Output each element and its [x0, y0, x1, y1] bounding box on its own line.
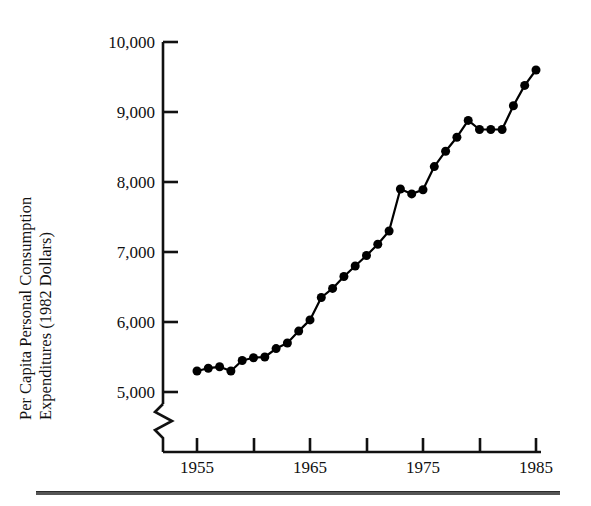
- data-point: [520, 81, 529, 90]
- data-point: [373, 240, 382, 249]
- data-point: [215, 362, 224, 371]
- data-point: [441, 147, 450, 156]
- data-point: [351, 262, 360, 271]
- y-axis-break-zigzag: [155, 404, 172, 452]
- data-point: [464, 116, 473, 125]
- data-point: [260, 353, 269, 362]
- data-point: [419, 185, 428, 194]
- data-point: [509, 101, 518, 110]
- data-point: [317, 293, 326, 302]
- axis-lines: [155, 42, 541, 452]
- data-point: [362, 251, 371, 260]
- data-point: [385, 227, 394, 236]
- data-point: [396, 185, 405, 194]
- data-point: [294, 327, 303, 336]
- data-series: [193, 66, 541, 376]
- data-point: [498, 125, 507, 134]
- data-point: [430, 162, 439, 171]
- y-tick-label-8000: 8,000: [117, 173, 155, 193]
- data-point: [226, 367, 235, 376]
- data-point: [475, 125, 484, 134]
- footer-rule: [36, 491, 560, 495]
- y-tick-label-9000: 9,000: [117, 103, 155, 123]
- data-point: [452, 133, 461, 142]
- data-point: [339, 272, 348, 281]
- y-tick-label-5000: 5,000: [117, 383, 155, 403]
- data-point: [306, 315, 315, 324]
- y-tick-label-6000: 6,000: [117, 313, 155, 333]
- data-point: [486, 125, 495, 134]
- data-point: [407, 189, 416, 198]
- x-tick-label-1975: 1975: [393, 458, 453, 478]
- series-markers: [193, 66, 541, 376]
- y-tick-label-10000: 10,000: [108, 33, 155, 53]
- data-point: [283, 339, 292, 348]
- x-tick-label-1985: 1985: [506, 458, 566, 478]
- chart-figure: Per Capita Personal Consumption Expendit…: [0, 0, 591, 506]
- x-tick-label-1955: 1955: [167, 458, 227, 478]
- data-point: [249, 353, 258, 362]
- plot-area: [0, 0, 591, 506]
- data-point: [272, 344, 281, 353]
- data-point: [328, 284, 337, 293]
- data-point: [238, 356, 247, 365]
- y-tick-label-7000: 7,000: [117, 243, 155, 263]
- data-point: [204, 364, 213, 373]
- x-tick-label-1965: 1965: [280, 458, 340, 478]
- series-line: [197, 70, 536, 371]
- data-point: [532, 66, 541, 75]
- data-point: [193, 367, 202, 376]
